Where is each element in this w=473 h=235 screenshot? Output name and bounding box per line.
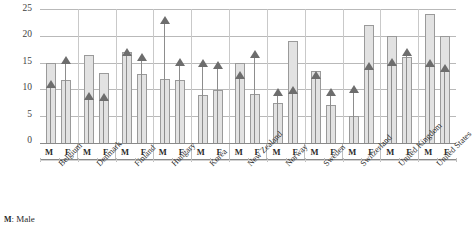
bar xyxy=(137,74,147,143)
bar xyxy=(213,90,223,143)
category-label-slot: New Zealand xyxy=(229,159,267,207)
marker-stem xyxy=(292,90,293,143)
marker-triangle xyxy=(364,62,374,70)
bar-item xyxy=(364,9,374,143)
marker-triangle xyxy=(273,88,283,96)
marker-triangle xyxy=(61,56,71,64)
bar xyxy=(364,25,374,143)
marker-stem xyxy=(368,66,369,143)
marker-triangle xyxy=(349,85,359,93)
bar xyxy=(311,71,321,143)
bar-group xyxy=(191,9,229,143)
marker-triangle xyxy=(137,53,147,61)
marker-triangle xyxy=(387,58,397,66)
marker-stem xyxy=(406,52,407,143)
bar-item xyxy=(402,9,412,143)
bar-item xyxy=(288,9,298,143)
bar-item xyxy=(213,9,223,143)
marker-stem xyxy=(202,63,203,143)
category-label-slot: Switzerland xyxy=(343,159,381,207)
bar-item xyxy=(311,9,321,143)
bar xyxy=(160,79,170,143)
marker-stem xyxy=(391,62,392,143)
bar xyxy=(175,80,185,143)
marker-stem xyxy=(103,97,104,143)
marker-stem xyxy=(126,52,127,143)
marker-stem xyxy=(50,84,51,143)
marker-stem xyxy=(353,89,354,143)
marker-triangle xyxy=(425,59,435,67)
marker-stem xyxy=(239,75,240,143)
y-tick-label: 0 xyxy=(0,136,32,146)
category-label-slot: United States xyxy=(418,159,456,207)
y-tick-label: 5 xyxy=(0,110,32,120)
bar-item xyxy=(250,9,260,143)
bar xyxy=(250,94,260,143)
bar-item xyxy=(46,9,56,143)
marker-triangle xyxy=(99,93,109,101)
category-label-slot: Norway xyxy=(267,159,305,207)
bar-item xyxy=(137,9,147,143)
bar-item xyxy=(326,9,336,143)
bar-group xyxy=(153,9,191,143)
bar-item xyxy=(273,9,283,143)
marker-stem xyxy=(141,57,142,143)
bar-group xyxy=(40,9,78,143)
bar-item xyxy=(198,9,208,143)
marker-triangle xyxy=(46,80,56,88)
bar-item xyxy=(349,9,359,143)
sub-axis-label-m: M xyxy=(40,144,58,159)
category-label-slot: Belgium xyxy=(40,159,78,207)
marker-stem xyxy=(330,92,331,143)
category-label-slot: Finland xyxy=(116,159,154,207)
bar-item xyxy=(175,9,185,143)
marker-stem xyxy=(315,75,316,143)
marker-stem xyxy=(254,54,255,143)
marker-stem xyxy=(444,68,445,143)
marker-triangle xyxy=(235,71,245,79)
y-tick-label: 20 xyxy=(0,30,32,40)
bar-group xyxy=(305,9,343,143)
bar-group xyxy=(267,9,305,143)
bar-item xyxy=(235,9,245,143)
bar-group xyxy=(78,9,116,143)
sub-axis-label-m: M xyxy=(154,144,172,159)
y-tick-label: 10 xyxy=(0,83,32,93)
sub-axis-label-m: M xyxy=(343,144,361,159)
bar xyxy=(198,95,208,143)
category-label-slot: Sweden xyxy=(305,159,343,207)
marker-triangle xyxy=(250,50,260,58)
category-label-slot: United Kingdom xyxy=(380,159,418,207)
bar xyxy=(349,116,359,143)
bar xyxy=(326,105,336,143)
marker-stem xyxy=(88,96,89,143)
bar-group xyxy=(380,9,418,143)
marker-stem xyxy=(179,62,180,143)
y-tick-label: 15 xyxy=(0,57,32,67)
category-label-slot: Korea xyxy=(191,159,229,207)
bar-group xyxy=(116,9,154,143)
marker-triangle xyxy=(402,48,412,56)
marker-stem xyxy=(65,60,66,143)
legend-male-key: M xyxy=(4,215,12,224)
marker-triangle xyxy=(198,59,208,67)
bar-item xyxy=(61,9,71,143)
category-label-slot: Hungary xyxy=(153,159,191,207)
marker-triangle xyxy=(213,61,223,69)
marker-triangle xyxy=(175,58,185,66)
category-label-slot: Denmark xyxy=(78,159,116,207)
bar xyxy=(402,57,412,143)
marker-triangle xyxy=(440,64,450,72)
marker-triangle xyxy=(160,16,170,24)
marker-triangle xyxy=(326,88,336,96)
bar-item xyxy=(440,9,450,143)
bar xyxy=(387,36,397,143)
bar-item xyxy=(160,9,170,143)
category-labels: BelgiumDenmarkFinlandHungaryKoreaNew Zea… xyxy=(40,159,456,207)
legend-male-text: : Male xyxy=(12,214,35,224)
marker-triangle xyxy=(311,71,321,79)
bar-group xyxy=(343,9,381,143)
marker-triangle xyxy=(84,92,94,100)
bar xyxy=(46,63,56,143)
